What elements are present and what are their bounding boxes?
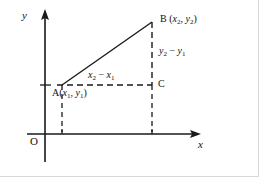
point-a-paren-close: ) [83,87,86,98]
point-a-label: A(x1, y1) [52,88,87,98]
point-a-x-subscript: 1 [67,92,71,100]
dx-second-subscript: 1 [111,74,115,82]
figure-canvas [0,0,259,177]
x-axis-label: x [198,139,203,150]
dy-minus-sign: − [167,45,178,56]
point-b-x-subscript: 2 [177,18,181,26]
point-c-label: C [158,79,165,89]
point-a-coordinates: (x1, y1) [59,87,87,98]
point-b-coordinates: (x2, y2) [169,13,197,24]
origin-label: O [30,136,38,147]
point-b-y-subscript: 2 [190,18,194,26]
vertical-distance-label: y2 − y1 [159,46,186,56]
point-a-y-subscript: 1 [80,92,84,100]
dx-minus-sign: − [96,69,107,80]
point-b-label: B (x2, y2) [160,14,197,24]
point-b-paren-close: ) [193,13,196,24]
y-axis-label: y [22,10,27,21]
dx-first-subscript: 2 [92,74,96,82]
coordinate-geometry-figure: y x O B (x2, y2) A(x1, y1) C x2 − x1 y2 … [0,0,259,177]
dy-first-subscript: 2 [163,50,167,58]
point-b-name: B [160,13,167,24]
horizontal-distance-label: x2 − x1 [88,70,115,80]
dy-second-subscript: 1 [182,50,186,58]
